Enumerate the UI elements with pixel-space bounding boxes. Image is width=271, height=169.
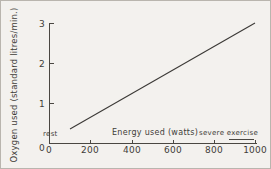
x-tick-label-0: 0 [46, 145, 52, 155]
x-tick-label-200: 200 [81, 145, 99, 155]
x-tick-label-800: 800 [205, 145, 223, 155]
annotation-rest: rest [43, 130, 58, 138]
y-tick-label-2: 2 [39, 59, 45, 69]
y-tick-label-3: 3 [39, 19, 45, 29]
x-tick-label-400: 400 [123, 145, 141, 155]
x-tick-label-1000: 1000 [243, 145, 267, 155]
chart-figure: 3 2 1 0 0 200 400 600 800 1000 Energy us… [0, 0, 271, 169]
oxygen-consumption-line [70, 23, 255, 129]
y-tick-label-1: 1 [39, 99, 45, 109]
oxygen-energy-line-chart: 3 2 1 0 0 200 400 600 800 1000 Energy us… [1, 1, 271, 169]
x-tick-marks [91, 140, 256, 144]
x-tick-label-600: 600 [164, 145, 182, 155]
x-axis-title: Energy used (watts) [112, 128, 198, 137]
y-tick-label-0: 0 [39, 143, 45, 153]
annotation-severe-exercise: severe exercise [199, 129, 258, 137]
y-tick-marks [50, 24, 54, 104]
y-axis-title: Oxygen used (standard litres/min.) [9, 7, 19, 162]
